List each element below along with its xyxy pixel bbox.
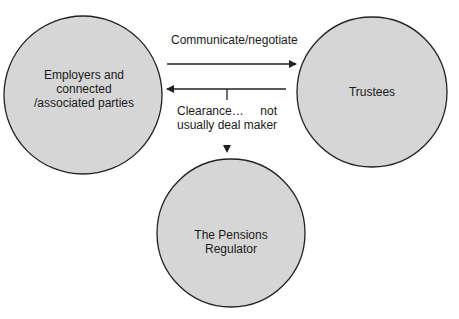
communicate-negotiate-label: Communicate/negotiate bbox=[171, 33, 298, 47]
arrow-down-to-regulator-icon bbox=[223, 145, 231, 153]
regulator-label: The Pensions Regulator bbox=[176, 226, 286, 258]
clearance-label: Clearance… not usually deal maker bbox=[177, 104, 277, 132]
employers-label: Employers and connected /associated part… bbox=[14, 65, 154, 113]
trustees-label: Trustees bbox=[322, 84, 422, 100]
diagram-canvas bbox=[0, 0, 459, 319]
